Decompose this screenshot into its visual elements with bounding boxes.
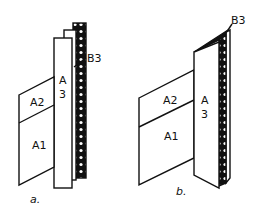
label-a1: A1 (32, 139, 47, 152)
panel-a3 (54, 38, 72, 188)
label-a3-top: A (59, 74, 67, 87)
folded-panels-diagram: A2 A1 A 3 B3 a. A2 A1 A 3 B3 b. (0, 0, 259, 214)
caption-b: b. (176, 185, 186, 198)
caption-a: a. (30, 193, 40, 206)
perforated-strip-b3 (219, 33, 226, 186)
panel-a1-a2 (19, 77, 54, 185)
label-a3-bottom: 3 (59, 88, 66, 101)
label-b3: B3 (87, 52, 102, 65)
label-a3-bottom: 3 (201, 108, 208, 121)
label-a3-top: A (201, 94, 209, 107)
panel-b (139, 24, 232, 188)
panel-a1-a2 (139, 70, 194, 185)
label-a2: A2 (163, 94, 178, 107)
label-a2: A2 (30, 96, 45, 109)
label-b3: B3 (231, 14, 246, 27)
label-a1: A1 (164, 130, 179, 143)
